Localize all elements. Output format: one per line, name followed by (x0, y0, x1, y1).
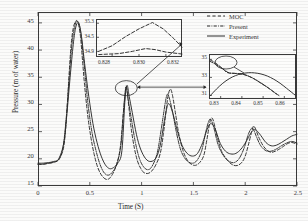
chart-vector-layer (0, 0, 308, 221)
pressure-time-figure: 15 20 25 30 35 40 45 0 0.5 1 1.5 2 2.5 P… (0, 0, 308, 221)
series-curve-experiment (38, 23, 297, 169)
series-curves (38, 21, 297, 180)
inset-curve-inset-right-moc (210, 60, 280, 96)
inset-curve-inset-right-experiment (210, 73, 295, 96)
arrow-head-right-icon (204, 85, 207, 89)
callout-annotations (115, 42, 244, 96)
arrow-head-left-icon (137, 85, 140, 89)
series-curve-moc (38, 21, 297, 180)
inset-curve-inset-top-present (99, 49, 182, 55)
inset-curve-inset-top-moc (99, 23, 182, 52)
inset-curves (99, 23, 295, 97)
callout-line-inset-right-detail (234, 67, 244, 73)
callout-ellipse-inset-right-detail (215, 56, 237, 69)
callout-line-to-inset-top (137, 44, 182, 84)
